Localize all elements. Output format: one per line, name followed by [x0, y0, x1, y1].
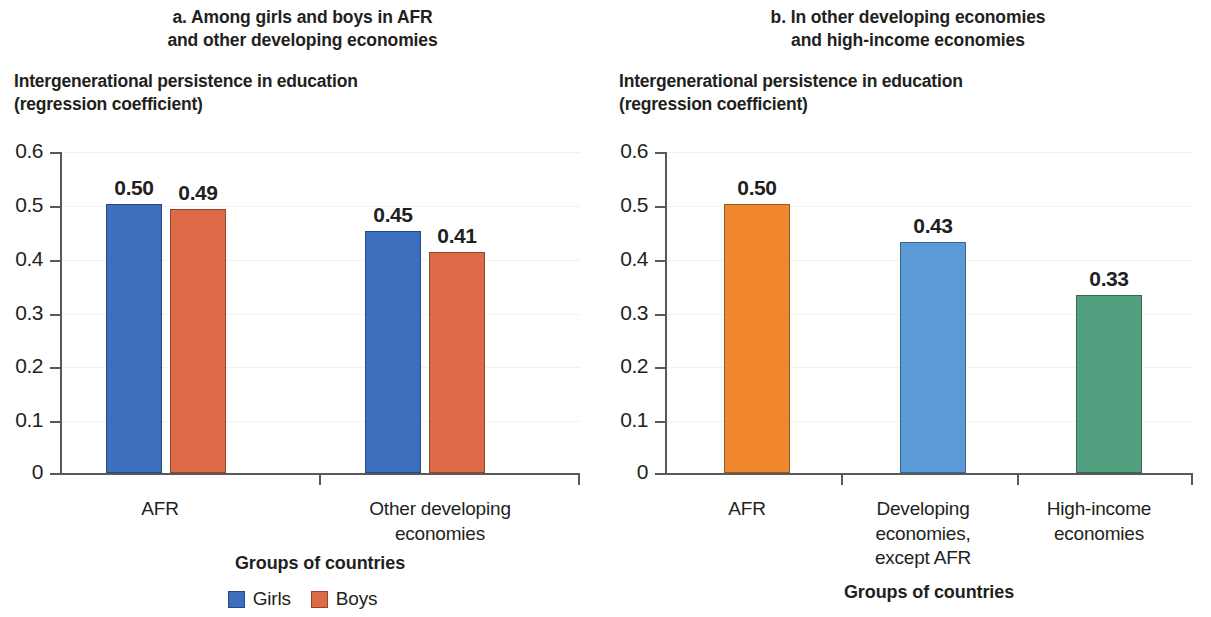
panel-a-category-label-other-developing: Other developing economies — [320, 497, 560, 546]
panel-a-gridline-0.6 — [62, 152, 580, 153]
panel-a-ytick-label-0.3: 0.3 — [15, 301, 43, 325]
panel-b-gridline-0.6 — [667, 152, 1193, 153]
panel-a-category-other-line-1: Other developing — [320, 497, 560, 522]
panel-a-ytick-0: 0 — [50, 473, 60, 475]
panel-b-title-line-1: b. In other developing economies — [605, 6, 1211, 29]
panel-a-ytick-label-0.2: 0.2 — [15, 354, 43, 378]
panel-b-plot-area: 0.6 0.5 0.4 0.3 0.2 0.1 0 — [665, 152, 1193, 475]
panel-a-ytick-0.5: 0.5 — [50, 206, 60, 208]
panel-b-ytick-0.2: 0.2 — [655, 367, 665, 369]
panel-b: b. In other developing economies and hig… — [605, 0, 1211, 617]
bar-high-income: 0.33 — [1076, 295, 1142, 473]
bar-label-afr-girls: 0.50 — [114, 176, 153, 200]
bar-afr-girls: 0.50 — [106, 204, 162, 473]
panel-b-category-label-high-income: High-income economies — [1009, 497, 1189, 546]
panel-b-ytick-0.4: 0.4 — [655, 260, 665, 262]
panel-b-title: b. In other developing economies and hig… — [605, 6, 1211, 52]
bar-label-other-developing-girls: 0.45 — [373, 203, 412, 227]
panel-a-category-afr-text: AFR — [60, 497, 260, 522]
panel-a-title-line-2: and other developing economies — [0, 29, 605, 52]
panel-a-x-axis-title: Groups of countries — [60, 553, 580, 574]
panel-b-x-axis-line — [665, 473, 1193, 475]
panel-b-xtick-end — [1191, 475, 1193, 485]
bar-label-high-income: 0.33 — [1089, 267, 1128, 291]
panel-b-x-axis-title: Groups of countries — [665, 582, 1193, 603]
panel-b-xtick-1 — [841, 475, 843, 485]
legend-item-boys[interactable]: Boys — [311, 588, 377, 610]
panel-a-y-axis-title-line-2: (regression coefficient) — [14, 93, 358, 116]
panel-b-ytick-0.1: 0.1 — [655, 421, 665, 423]
panel-b-ytick-label-0.4: 0.4 — [620, 247, 648, 271]
bar-other-developing-boys: 0.41 — [429, 252, 485, 473]
bar-other-developing-girls: 0.45 — [365, 231, 421, 473]
panel-b-ytick-label-0.1: 0.1 — [620, 408, 648, 432]
panel-a-category-other-line-2: economies — [320, 522, 560, 547]
legend-item-girls[interactable]: Girls — [228, 588, 291, 610]
panel-a-category-label-afr: AFR — [60, 497, 260, 522]
legend-swatch-boys-icon — [311, 591, 328, 608]
panel-a-ytick-0.2: 0.2 — [50, 367, 60, 369]
legend-label-boys: Boys — [336, 588, 377, 610]
panel-a-legend: Girls Boys — [0, 588, 605, 610]
panel-b-title-line-2: and high-income economies — [605, 29, 1211, 52]
panel-a-ytick-0.1: 0.1 — [50, 421, 60, 423]
bar-label-afr: 0.50 — [737, 176, 776, 200]
panel-b-y-axis-title: Intergenerational persistence in educati… — [619, 70, 963, 116]
legend-swatch-girls-icon — [228, 591, 245, 608]
panel-a-ytick-0.3: 0.3 — [50, 314, 60, 316]
panel-b-ytick-0: 0 — [655, 473, 665, 475]
bar-label-other-developing-boys: 0.41 — [437, 224, 476, 248]
panel-b-category-dev-line-1: Developing — [833, 497, 1013, 522]
panel-b-ytick-0.6: 0.6 — [655, 152, 665, 154]
panel-a-ytick-0.6: 0.6 — [50, 152, 60, 154]
bar-label-afr-boys: 0.49 — [178, 181, 217, 205]
panel-a-title-line-1: a. Among girls and boys in AFR — [0, 6, 605, 29]
panel-b-xtick-2 — [1017, 475, 1019, 485]
panel-b-ytick-0.5: 0.5 — [655, 206, 665, 208]
panel-b-y-axis-title-line-2: (regression coefficient) — [619, 93, 963, 116]
panel-b-ytick-label-0.3: 0.3 — [620, 301, 648, 325]
panel-a-y-axis-title: Intergenerational persistence in educati… — [14, 70, 358, 116]
panel-a-y-axis-title-line-1: Intergenerational persistence in educati… — [14, 70, 358, 93]
panel-b-ytick-label-0.6: 0.6 — [620, 139, 648, 163]
bar-afr-boys: 0.49 — [170, 209, 226, 473]
panel-b-category-dev-line-3: except AFR — [833, 546, 1013, 571]
panel-a-ytick-label-0.1: 0.1 — [15, 408, 43, 432]
panel-b-ytick-label-0: 0 — [637, 460, 648, 484]
panel-a-ytick-label-0.4: 0.4 — [15, 247, 43, 271]
panel-a-ytick-label-0.6: 0.6 — [15, 139, 43, 163]
bar-afr: 0.50 — [724, 204, 790, 473]
panel-a-xtick-end — [578, 475, 580, 485]
legend-label-girls: Girls — [253, 588, 291, 610]
panel-b-ytick-label-0.5: 0.5 — [620, 193, 648, 217]
panel-a-xtick-mid — [319, 475, 321, 485]
panel-b-category-dev-line-2: economies, — [833, 522, 1013, 547]
panel-a-plot-area: 0.6 0.5 0.4 0.3 0.2 0.1 0 — [60, 152, 580, 475]
bar-label-developing-except-afr: 0.43 — [913, 214, 952, 238]
panel-b-category-high-line-2: economies — [1009, 522, 1189, 547]
bar-developing-except-afr: 0.43 — [900, 242, 966, 474]
panel-a: a. Among girls and boys in AFR and other… — [0, 0, 605, 617]
panel-b-category-afr-text: AFR — [657, 497, 837, 522]
panel-a-ytick-label-0.5: 0.5 — [15, 193, 43, 217]
panel-b-category-high-line-1: High-income — [1009, 497, 1189, 522]
two-panel-bar-chart-figure: a. Among girls and boys in AFR and other… — [0, 0, 1211, 617]
panel-a-ytick-0.4: 0.4 — [50, 260, 60, 262]
panel-a-title: a. Among girls and boys in AFR and other… — [0, 6, 605, 52]
panel-b-ytick-0.3: 0.3 — [655, 314, 665, 316]
panel-b-category-label-developing-except-afr: Developing economies, except AFR — [833, 497, 1013, 571]
panel-b-category-label-afr: AFR — [657, 497, 837, 522]
panel-a-ytick-label-0: 0 — [32, 460, 43, 484]
panel-b-ytick-label-0.2: 0.2 — [620, 354, 648, 378]
panel-b-y-axis-title-line-1: Intergenerational persistence in educati… — [619, 70, 963, 93]
